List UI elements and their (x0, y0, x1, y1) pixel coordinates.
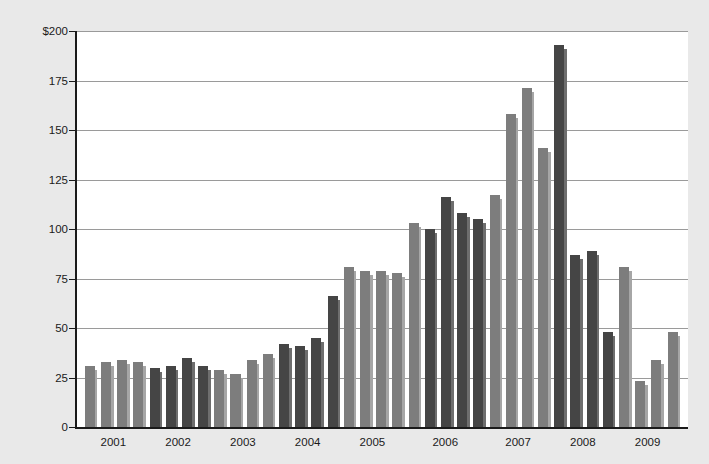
plot-area (77, 31, 688, 427)
bar-body (490, 195, 500, 427)
bar-2005-q3 (376, 31, 389, 427)
y-axis-tick-mark-150 (69, 130, 75, 131)
bar-2008-q1 (554, 31, 567, 427)
bar-body (133, 362, 143, 427)
bar-2006-q2 (425, 31, 438, 427)
bar-2001-q2 (101, 31, 114, 427)
bar-body (214, 370, 224, 427)
bar-shadow (419, 227, 422, 427)
bar-shadow (629, 271, 632, 427)
bar-2006-q4 (457, 31, 470, 427)
bar-shadow (176, 370, 179, 427)
x-axis-tick-label-2001: 2001 (101, 436, 127, 448)
bar-2003-q1 (214, 31, 227, 427)
y-axis-tick-label-25: 25 (8, 372, 68, 384)
bar-body (166, 366, 176, 427)
bar-shadow (661, 364, 664, 427)
bar-shadow (143, 366, 146, 427)
bar-body (85, 366, 95, 427)
bar-body (587, 251, 597, 427)
bar-body (182, 358, 192, 427)
bar-chart: 0255075100125150175$20020012002200320042… (0, 0, 709, 464)
bar-2002-q4 (198, 31, 211, 427)
bar-shadow (516, 118, 519, 427)
bar-shadow (289, 348, 292, 427)
bar-shadow (402, 277, 405, 427)
bar-2006-q3 (441, 31, 454, 427)
bar-shadow (386, 275, 389, 427)
y-axis-tick-label-200: $200 (8, 25, 68, 37)
bar-shadow (224, 374, 227, 427)
bar-body (328, 296, 338, 427)
bar-2006-q5 (473, 31, 486, 427)
x-axis-tick-label-2004: 2004 (295, 436, 321, 448)
bar-body (198, 366, 208, 427)
bar-shadow (95, 370, 98, 427)
bar-2005-q1 (344, 31, 357, 427)
bar-2007-q1 (490, 31, 503, 427)
bar-shadow (500, 199, 503, 427)
bar-shadow (435, 233, 438, 427)
bar-2006-q1 (409, 31, 422, 427)
y-axis-tick-mark-200 (69, 31, 75, 32)
bar-2002-q1 (150, 31, 163, 427)
y-axis-tick-mark-25 (69, 378, 75, 379)
bar-2007-q3 (522, 31, 535, 427)
y-axis-tick-label-0: 0 (8, 421, 68, 433)
bar-body (441, 197, 451, 427)
x-axis-tick-label-2009: 2009 (635, 436, 661, 448)
bar-shadow (354, 271, 357, 427)
bar-body (247, 360, 257, 427)
y-axis-tick-mark-75 (69, 279, 75, 280)
y-axis-tick-label-125: 125 (8, 174, 68, 186)
bar-body (473, 219, 483, 427)
bar-shadow (370, 275, 373, 427)
bar-body (603, 332, 613, 427)
bar-2005-q2 (360, 31, 373, 427)
bar-shadow (257, 364, 260, 427)
x-axis-tick-label-2007: 2007 (505, 436, 531, 448)
bar-shadow (273, 358, 276, 427)
bar-body (230, 374, 240, 427)
bar-2008-q3 (587, 31, 600, 427)
bar-2004-q1 (279, 31, 292, 427)
bar-body (376, 271, 386, 427)
x-axis-tick-label-2003: 2003 (230, 436, 256, 448)
bar-shadow (564, 49, 567, 427)
bar-shadow (192, 362, 195, 427)
x-axis-tick-label-2006: 2006 (432, 436, 458, 448)
bar-shadow (678, 336, 681, 427)
bar-body (150, 368, 160, 427)
bar-2007-q4 (538, 31, 551, 427)
bar-body (279, 344, 289, 427)
bar-shadow (645, 385, 648, 427)
bar-body (360, 271, 370, 427)
bar-2003-q3 (247, 31, 260, 427)
bar-body (635, 381, 645, 427)
bar-shadow (305, 350, 308, 427)
bar-shadow (338, 300, 341, 427)
bar-2003-q4 (263, 31, 276, 427)
bar-body (570, 255, 580, 427)
bar-shadow (208, 370, 211, 427)
bar-2002-q2 (166, 31, 179, 427)
bar-2004-q3 (311, 31, 324, 427)
bar-2009-q2 (635, 31, 648, 427)
bar-body (295, 346, 305, 427)
y-axis-tick-label-50: 50 (8, 322, 68, 334)
y-axis-tick-mark-0 (69, 427, 75, 428)
bar-shadow (580, 259, 583, 427)
bar-2001-q4 (133, 31, 146, 427)
bar-2004-q2 (295, 31, 308, 427)
bar-2001-q3 (117, 31, 130, 427)
bar-shadow (321, 342, 324, 427)
bar-body (522, 88, 532, 427)
bar-body (425, 229, 435, 427)
plot-frame (75, 31, 688, 429)
bar-shadow (548, 152, 551, 427)
bar-body (668, 332, 678, 427)
bar-shadow (483, 223, 486, 427)
bar-body (506, 114, 516, 427)
y-axis-tick-label-175: 175 (8, 75, 68, 87)
bar-shadow (613, 336, 616, 427)
